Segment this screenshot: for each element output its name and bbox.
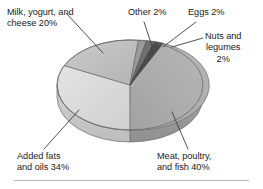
slice-label-nuts-line1: Nuts and — [205, 31, 241, 41]
slice-label-milk-line2: cheese 20% — [7, 18, 57, 28]
slice-label-nuts-line3: 2% — [217, 54, 230, 64]
slice-label-other: Other 2% — [128, 7, 166, 18]
slice-label-other-line1: Other 2% — [128, 7, 166, 17]
leader-line-nuts — [172, 38, 203, 47]
leader-line-eggs — [163, 22, 196, 47]
footer-divider — [14, 180, 249, 181]
slice-label-milk-yogurt-cheese: Milk, yogurt, and cheese 20% — [7, 7, 74, 30]
slice-label-meat-line2: and fish 40% — [157, 162, 210, 172]
slice-label-eggs-line1: Eggs 2% — [188, 7, 224, 17]
slice-label-meat-poultry-fish: Meat, poultry, and fish 40% — [157, 151, 211, 174]
slice-label-nuts-line2: legumes — [206, 42, 240, 52]
pie-slices — [57, 40, 209, 130]
slice-label-fats-line2: and oils 34% — [17, 162, 69, 172]
slice-label-milk-line1: Milk, yogurt, and — [7, 7, 74, 17]
slice-label-eggs: Eggs 2% — [188, 7, 224, 18]
slice-label-meat-line1: Meat, poultry, — [157, 151, 211, 161]
leader-line-fats — [44, 110, 79, 149]
slice-label-fats-line1: Added fats — [17, 151, 60, 161]
slice-label-nuts-and-legumes: Nuts and legumes 2% — [205, 31, 241, 65]
slice-label-added-fats-and-oils: Added fats and oils 34% — [17, 151, 69, 174]
